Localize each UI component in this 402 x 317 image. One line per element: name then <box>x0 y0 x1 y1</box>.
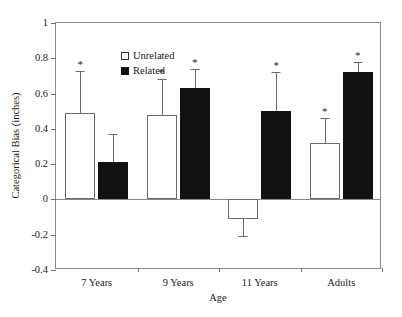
y-tick <box>51 164 56 165</box>
significance-marker: * <box>78 59 84 70</box>
error-bar-cap <box>353 62 362 63</box>
legend-label-related: Related <box>133 65 165 77</box>
error-bar-cap <box>190 69 199 70</box>
y-tick <box>51 58 56 59</box>
bar-unrelated-2 <box>228 199 258 218</box>
bar-related-3 <box>343 72 373 199</box>
error-bar-cap <box>109 134 118 135</box>
error-bar-stem <box>162 79 163 114</box>
zero-baseline <box>56 199 380 200</box>
bar-related-1 <box>180 88 210 199</box>
y-tick-label: 1 <box>43 18 48 29</box>
y-tick <box>51 129 56 130</box>
error-bar-stem <box>325 118 326 143</box>
y-tick-label: 0.6 <box>35 88 48 99</box>
bar-related-0 <box>98 162 128 199</box>
legend-swatch-filled-square-icon <box>121 67 129 75</box>
y-axis-title: Categorical Bias (inches) <box>7 22 23 269</box>
plot-area: 10.80.60.40.20-0.2-0.4 ****** 7 Years9 Y… <box>55 22 381 269</box>
legend: Unrelated Related <box>121 50 174 77</box>
x-tick <box>138 268 139 272</box>
y-tick-label: 0.4 <box>35 124 48 135</box>
error-bar-stem <box>195 69 196 88</box>
legend-item-related: Related <box>121 65 174 77</box>
error-bar-stem <box>80 71 81 113</box>
significance-marker: * <box>274 60 280 71</box>
y-tick-label: 0.2 <box>35 159 48 170</box>
y-tick <box>51 235 56 236</box>
y-axis-title-text: Categorical Bias (inches) <box>10 92 21 198</box>
x-axis-label: Adults <box>327 277 355 288</box>
y-tick <box>51 23 56 24</box>
error-bar-cap <box>157 79 166 80</box>
y-tick <box>51 270 56 271</box>
chart-figure: Categorical Bias (inches) 10.80.60.40.20… <box>0 0 402 317</box>
error-bar-stem <box>113 134 114 162</box>
error-bar-cap <box>320 118 329 119</box>
x-axis-label: 11 Years <box>242 277 278 288</box>
legend-item-unrelated: Unrelated <box>121 50 174 62</box>
significance-marker: * <box>192 57 198 68</box>
x-tick <box>382 268 383 272</box>
significance-marker: * <box>322 106 328 117</box>
error-bar-cap <box>239 236 248 237</box>
y-tick-label: 0 <box>43 194 48 205</box>
error-bar-stem <box>276 72 277 111</box>
x-tick <box>219 268 220 272</box>
bar-unrelated-1 <box>147 115 177 200</box>
error-bar-cap <box>76 71 85 72</box>
error-bar-stem <box>358 62 359 73</box>
x-axis-label: 7 Years <box>81 277 112 288</box>
bar-related-2 <box>261 111 291 199</box>
legend-swatch-open-square-icon <box>121 52 129 60</box>
y-tick-label: -0.4 <box>31 265 48 276</box>
error-bar-stem <box>243 219 244 237</box>
x-axis-label: 9 Years <box>163 277 194 288</box>
bar-unrelated-0 <box>65 113 95 199</box>
y-tick-label: 0.8 <box>35 53 48 64</box>
y-tick-label: -0.2 <box>31 229 48 240</box>
bar-unrelated-3 <box>310 143 340 199</box>
x-axis-title: Age <box>55 292 381 303</box>
legend-label-unrelated: Unrelated <box>133 50 174 62</box>
y-tick <box>51 94 56 95</box>
x-tick <box>301 268 302 272</box>
significance-marker: * <box>355 50 361 61</box>
error-bar-cap <box>272 72 281 73</box>
